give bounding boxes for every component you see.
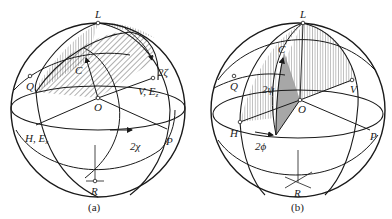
point-V — [350, 78, 354, 82]
label-C: C — [278, 43, 286, 55]
point-Q — [28, 74, 32, 78]
angle-phi-arrow — [255, 132, 273, 135]
label-2chi: 2χ — [130, 140, 142, 152]
label-H: H — [229, 127, 239, 139]
label-R: R — [90, 185, 98, 197]
line-O-P — [300, 100, 370, 130]
point-Q — [232, 74, 236, 78]
label-P: P — [369, 130, 377, 142]
caption-b: (b) — [291, 201, 304, 214]
label-L: L — [299, 8, 306, 20]
poincare-sphere-figure: L C Q O V, Ez 2ζ H, Ex P 2χ R (a) — [0, 0, 392, 219]
label-C: C — [75, 64, 83, 76]
caption-a: (a) — [88, 201, 101, 214]
label-2phi: 2ϕ — [255, 140, 267, 152]
label-L: L — [94, 8, 101, 20]
point-V — [151, 76, 155, 80]
label-V: V, Ez — [138, 85, 159, 99]
point-O — [298, 98, 302, 102]
label-Q: Q — [230, 80, 238, 92]
label-O: O — [94, 101, 102, 113]
point-H — [238, 120, 242, 124]
point-O — [96, 96, 100, 100]
line-O-H — [36, 98, 98, 125]
label-R: R — [293, 187, 301, 199]
point-L — [301, 21, 305, 25]
label-Q: Q — [26, 80, 34, 92]
label-O: O — [298, 103, 306, 115]
label-P: P — [165, 135, 173, 147]
label-H: H, Ex — [24, 132, 49, 146]
panel-a: L C Q O V, Ez 2ζ H, Ex P 2χ R (a) — [11, 8, 185, 214]
label-2psi: 2ψ — [262, 83, 275, 95]
line-O-P — [98, 98, 167, 129]
panel-b: L C Q 2ψ O V H 2ϕ P R (b) — [211, 8, 385, 214]
point-L — [96, 21, 100, 25]
label-2zeta: 2ζ — [158, 66, 170, 79]
point-R — [93, 179, 97, 183]
